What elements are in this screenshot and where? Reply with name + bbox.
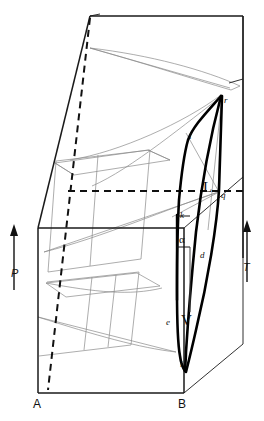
region-label-alpha: α xyxy=(179,234,185,245)
region-label-vapour: V xyxy=(181,313,192,328)
corner-label-b: B xyxy=(178,398,186,410)
prism-diagram-svg xyxy=(0,0,264,421)
axis-label-p: P xyxy=(11,268,18,279)
point-label-k: k xyxy=(180,211,184,220)
point-label-e: e xyxy=(166,318,170,327)
diagram-canvas: P T A B r l L q k α d e V i xyxy=(0,0,264,421)
axis-arrow-p xyxy=(10,224,18,290)
point-label-i: i xyxy=(180,360,183,369)
prism-outline xyxy=(38,16,243,393)
point-label-q: q xyxy=(221,191,226,200)
axis-label-t: T xyxy=(243,262,250,273)
prism-right-face xyxy=(90,14,243,83)
corner-label-a: A xyxy=(33,398,41,410)
point-label-r: r xyxy=(224,96,228,105)
point-label-l-lower: l xyxy=(189,132,192,141)
point-label-d: d xyxy=(200,251,205,260)
region-label-liquid: L xyxy=(203,180,212,195)
